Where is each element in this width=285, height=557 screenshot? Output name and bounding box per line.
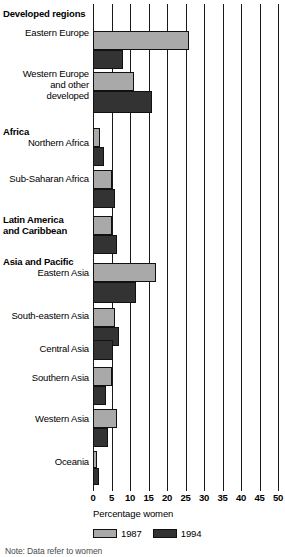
axis-tick-marks — [93, 485, 278, 492]
bar-sub-saharan-africa-1987 — [93, 170, 112, 189]
category-label: Central Asia — [0, 343, 89, 354]
gridline-30 — [204, 4, 205, 485]
category-label: Oceania — [0, 456, 89, 467]
legend-item-1994: 1994 — [153, 528, 202, 539]
tick-label-0: 0 — [83, 492, 103, 504]
bar-southern-asia-1994 — [93, 386, 106, 405]
gridline-45 — [260, 4, 261, 485]
gridline-40 — [241, 4, 242, 485]
axis-tick-labels: 05101520253035404550 — [93, 492, 283, 505]
tick-label-30: 30 — [194, 492, 214, 504]
chart-footnote: Note: Data refer to women — [5, 546, 283, 557]
tick-label-45: 45 — [250, 492, 270, 504]
tick-25 — [186, 485, 187, 491]
tick-label-20: 20 — [157, 492, 177, 504]
tick-10 — [130, 485, 131, 491]
bar-western-europe-1987 — [93, 72, 134, 91]
bar-eastern-europe-1994 — [93, 50, 123, 69]
plot-area — [93, 4, 278, 485]
legend-swatch-1987 — [93, 529, 117, 538]
category-label: Sub-Saharan Africa — [0, 173, 89, 184]
tick-5 — [112, 485, 113, 491]
bar-eastern-europe-1987 — [93, 31, 189, 50]
tick-15 — [149, 485, 150, 491]
tick-35 — [223, 485, 224, 491]
bar-southern-asia-1987 — [93, 367, 112, 386]
tick-45 — [260, 485, 261, 491]
gridline-20 — [167, 4, 168, 485]
bar-northern-africa-1994 — [93, 147, 104, 166]
tick-30 — [204, 485, 205, 491]
tick-label-50: 50 — [268, 492, 285, 504]
gridline-35 — [223, 4, 224, 485]
bar-northern-africa-1987 — [93, 128, 100, 147]
category-label-column: Eastern EuropeWestern Europeand otherdev… — [0, 4, 89, 485]
category-label: Western Europe — [0, 68, 89, 79]
category-label: Eastern Asia — [0, 267, 89, 278]
tick-label-10: 10 — [120, 492, 140, 504]
percentage-women-bar-chart: Eastern EuropeWestern Europeand otherdev… — [0, 0, 285, 557]
category-label: South-eastern Asia — [0, 310, 89, 321]
x-axis-title: Percentage women — [93, 508, 173, 520]
legend-label-1987: 1987 — [121, 528, 142, 539]
bar-latin-america-1987 — [93, 216, 112, 235]
chart-legend: 19871994 — [93, 527, 212, 540]
gridline-25 — [186, 4, 187, 485]
category-label: Western Asia — [0, 413, 89, 424]
bar-eastern-asia-1994 — [93, 282, 136, 303]
gridline-50 — [278, 4, 279, 485]
bar-oceania-1987 — [93, 451, 97, 468]
tick-label-35: 35 — [213, 492, 233, 504]
bar-oceania-1994 — [93, 468, 99, 485]
category-label: Eastern Europe — [0, 27, 89, 38]
category-label: developed — [0, 90, 89, 101]
bar-eastern-asia-1987 — [93, 263, 156, 282]
bar-central-asia-1994 — [93, 340, 113, 360]
bar-western-europe-1994 — [93, 91, 152, 113]
bar-south-eastern-asia-1987 — [93, 308, 115, 327]
tick-20 — [167, 485, 168, 491]
tick-label-15: 15 — [139, 492, 159, 504]
legend-swatch-1994 — [153, 529, 177, 538]
tick-50 — [278, 485, 279, 491]
tick-label-25: 25 — [176, 492, 196, 504]
tick-label-40: 40 — [231, 492, 251, 504]
legend-item-1987: 1987 — [93, 528, 142, 539]
legend-label-1994: 1994 — [181, 528, 202, 539]
category-label: and other — [0, 79, 89, 90]
category-label: Southern Asia — [0, 372, 89, 383]
bar-latin-america-1994 — [93, 235, 117, 254]
category-label: Northern Africa — [0, 137, 89, 148]
bar-sub-saharan-africa-1994 — [93, 189, 115, 208]
bar-western-asia-1994 — [93, 428, 108, 447]
bar-western-asia-1987 — [93, 409, 117, 428]
gridline-15 — [149, 4, 150, 485]
tick-0 — [93, 485, 94, 491]
tick-40 — [241, 485, 242, 491]
tick-label-5: 5 — [102, 492, 122, 504]
